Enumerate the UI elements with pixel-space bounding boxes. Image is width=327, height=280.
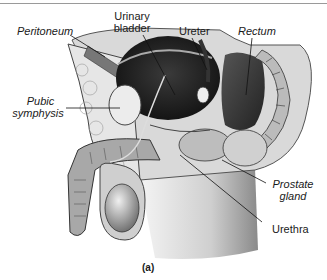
label-peritoneum: Peritoneum (17, 25, 73, 37)
label-rectum: Rectum (238, 25, 276, 37)
label-prostate-gland-line1: Prostate (268, 178, 318, 190)
label-urethra: Urethra (272, 223, 309, 235)
label-urinary-bladder-line1: Urinary (112, 10, 152, 22)
label-ureter: Ureter (179, 25, 210, 37)
label-pubic-symphysis-line1: Pubic (18, 95, 63, 107)
label-urinary-bladder-line2: bladder (112, 22, 152, 34)
figure-caption: (a) (142, 262, 154, 273)
label-pubic-symphysis-line2: symphysis (8, 107, 68, 119)
pelvic-anatomy-illustration (0, 0, 327, 280)
label-prostate-gland-line2: gland (268, 190, 318, 202)
